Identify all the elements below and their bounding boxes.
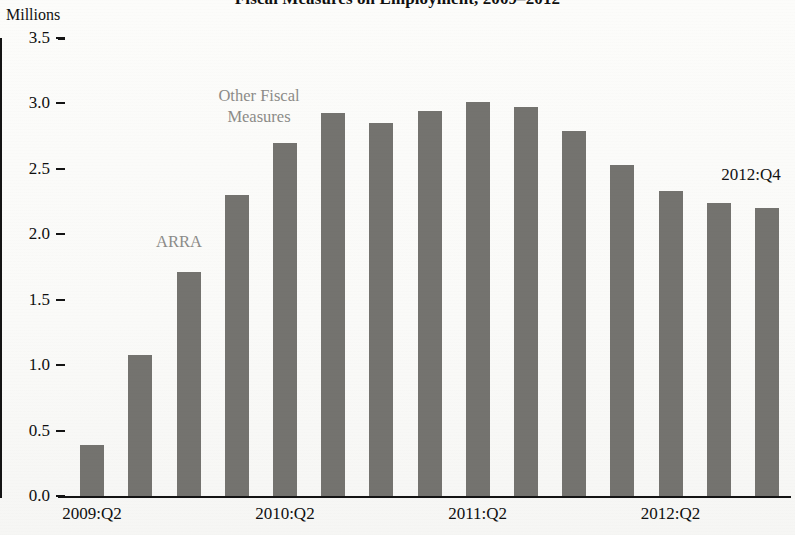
bar [177,272,201,496]
annotation-other-fiscal-measures: Other Fiscal Measures [193,86,325,127]
y-axis-tick-label: 1.5 [4,291,50,308]
bar [273,143,297,496]
y-axis-tick [56,430,65,432]
y-axis-tick [56,37,65,39]
bar [225,195,249,496]
annotation-last-quarter: 2012:Q4 [708,165,794,185]
bar [128,355,152,496]
bar [610,165,634,496]
y-axis-tick-label: 2.0 [4,225,50,242]
chart-title: Fiscal Measures on Employment, 2009–2012 [0,0,795,9]
bar [369,123,393,496]
y-axis-tick-label: 3.5 [4,29,50,46]
bar [755,208,779,496]
x-axis-line [58,496,791,498]
x-axis-tick-label: 2009:Q2 [42,504,142,524]
bar [659,191,683,496]
y-axis-tick-label: 0.0 [4,487,50,504]
annotation-arra: ARRA [140,232,218,253]
bar [466,102,490,496]
bar [418,111,442,496]
y-axis-tick-label: 0.5 [4,422,50,439]
y-axis-tick [56,364,65,366]
y-axis-unit-label: Millions [6,6,60,24]
y-axis-tick-label: 3.0 [4,94,50,111]
y-axis-tick-label: 2.5 [4,160,50,177]
y-axis-tick [56,102,65,104]
bar [707,203,731,496]
y-axis-line [0,38,2,498]
x-axis-tick-label: 2010:Q2 [235,504,335,524]
bar [321,113,345,496]
bar [562,131,586,496]
y-axis-tick [56,495,65,497]
chart-figure: Fiscal Measures on Employment, 2009–2012… [0,0,795,535]
y-axis-tick-label: 1.0 [4,356,50,373]
bar [514,107,538,496]
x-axis-tick-label: 2012:Q2 [621,504,721,524]
y-axis-tick [56,299,65,301]
y-axis-tick [56,168,65,170]
x-axis-tick-label: 2011:Q2 [428,504,528,524]
y-axis-tick [56,233,65,235]
bar [80,445,104,496]
